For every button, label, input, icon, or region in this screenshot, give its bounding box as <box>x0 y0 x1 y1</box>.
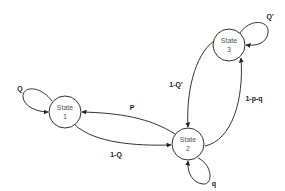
edge-s1-self <box>23 89 52 112</box>
label-s3-self: Q' <box>266 13 273 21</box>
state-1-node: State 1 <box>49 96 81 128</box>
edge-s3-to-s2 <box>188 41 214 127</box>
state-3-number: 3 <box>227 46 231 53</box>
state-3-node: State 3 <box>213 29 245 61</box>
state-2-label: State <box>180 136 196 143</box>
state-2-node: State 2 <box>172 128 204 160</box>
state-2-number: 2 <box>186 145 190 152</box>
label-s1-to-s2: 1-Q <box>110 151 122 159</box>
label-s2-to-s1: P <box>130 104 135 111</box>
label-s2-to-s3: 1-p-q <box>245 95 262 103</box>
edge-s1-to-s2 <box>75 125 171 145</box>
edge-s2-to-s1 <box>82 112 175 134</box>
label-s1-self: Q <box>17 85 23 93</box>
state-1-label: State <box>57 104 73 111</box>
label-s2-self: q <box>212 180 216 188</box>
edge-s2-to-s3 <box>205 58 241 146</box>
edge-s2-self <box>188 158 210 184</box>
state-1-number: 1 <box>63 113 67 120</box>
state-diagram: State 1 State 2 State 3 Q P 1-Q 1-Q' 1-p… <box>0 0 285 191</box>
state-3-label: State <box>221 37 237 44</box>
label-s3-to-s2: 1-Q' <box>169 81 183 89</box>
